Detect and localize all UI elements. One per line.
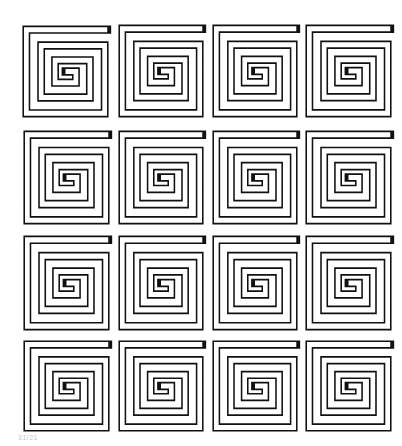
spiral-tile	[305, 130, 392, 225]
spiral-tile	[212, 130, 298, 225]
square-spiral-icon	[118, 24, 204, 118]
spiral-tile	[212, 24, 298, 118]
spiral-tile	[118, 24, 204, 118]
spiral-tile	[212, 235, 298, 331]
spiral-pattern-grid	[0, 0, 402, 446]
spiral-tile	[305, 235, 392, 331]
square-spiral-icon	[212, 24, 298, 118]
square-spiral-icon	[305, 340, 392, 432]
square-spiral-icon	[118, 235, 204, 331]
square-spiral-icon	[305, 235, 392, 331]
spiral-tile	[305, 340, 392, 432]
square-spiral-icon	[22, 25, 109, 118]
spiral-tile	[22, 25, 109, 118]
square-spiral-icon	[118, 340, 204, 432]
square-spiral-icon	[118, 130, 204, 225]
spiral-tile	[23, 340, 110, 432]
square-spiral-icon	[305, 24, 392, 118]
figure-caption: 31/21	[18, 434, 38, 441]
spiral-tile	[212, 340, 298, 432]
square-spiral-icon	[212, 130, 298, 225]
spiral-tile	[305, 24, 392, 118]
square-spiral-icon	[305, 130, 392, 225]
spiral-tile	[23, 130, 110, 225]
square-spiral-icon	[212, 340, 298, 432]
square-spiral-icon	[23, 235, 110, 331]
square-spiral-icon	[23, 340, 110, 432]
spiral-tile	[118, 235, 204, 331]
spiral-tile	[118, 340, 204, 432]
square-spiral-icon	[212, 235, 298, 331]
spiral-tile	[118, 130, 204, 225]
spiral-tile	[23, 235, 110, 331]
square-spiral-icon	[23, 130, 110, 225]
